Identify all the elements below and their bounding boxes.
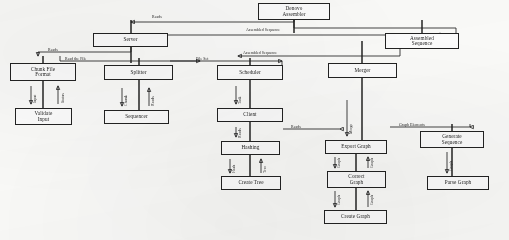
node-label: Sequencer (125, 114, 148, 119)
edge-client-merger (283, 124, 470, 129)
node-label: Denovo Assembler (282, 6, 305, 17)
node-label: Server (123, 37, 137, 42)
node-label: Export Graph (341, 144, 371, 149)
node-hashing[interactable]: Hashing (221, 141, 280, 155)
node-generate_seq[interactable]: Generate Sequence (420, 131, 484, 148)
edge-label-v_tree_hash: Tree (264, 166, 268, 173)
node-denovo_assembler[interactable]: Denovo Assembler (258, 3, 330, 20)
node-splitter[interactable]: Splitter (104, 65, 173, 80)
node-chunk_file_format[interactable]: Chunk File Format (10, 63, 76, 81)
edge-label-assembled_seq_2: Assembled Sequence (243, 52, 277, 56)
node-label: Correct Graph (348, 174, 364, 185)
node-label: Generate Sequence (442, 134, 463, 145)
edge-label-v_correct_export: Graph (371, 158, 375, 168)
node-parse_graph[interactable]: Parse Graph (427, 176, 489, 190)
edge-label-v_validate_chunk: Status (62, 93, 66, 103)
node-label: Splitter (130, 70, 146, 75)
edge-label-v_sched_client: Task (239, 97, 243, 105)
edge-label-v_export_correct: Graph (338, 158, 342, 168)
node-label: Scheduler (239, 70, 261, 75)
node-create_tree[interactable]: Create Tree (221, 176, 281, 190)
edge-label-v_merger_export: Merge (350, 124, 354, 134)
edge-label-v_client_hash: Reads (239, 128, 243, 138)
edge-label-v_correct_create: Graph (338, 195, 342, 205)
edge-label-v_gen_parse: Graph (450, 161, 454, 171)
node-label: Parse Graph (445, 180, 472, 185)
node-correct_graph[interactable]: Correct Graph (327, 171, 386, 188)
node-label: Create Graph (341, 214, 370, 219)
edge-label-reads_client: Reads (291, 126, 301, 130)
edge-label-v_seq_split: Reads (152, 96, 156, 106)
node-label: Merger (355, 68, 371, 73)
edge-label-graph_elements: Graph Elements (399, 124, 425, 128)
edge-label-assembled_seq_1: Assembled Sequence (246, 29, 280, 33)
node-sequencer[interactable]: Sequencer (104, 110, 169, 124)
edge-label-v_hash_tree: Hash (233, 165, 237, 173)
denovo-assembler-diagram: Denovo AssemblerServerAssembled Sequence… (0, 0, 509, 240)
node-label: Validate Input (35, 111, 53, 122)
edge-reads-top (131, 20, 294, 22)
edge-label-file_set: File Set (196, 58, 208, 62)
edge-label-reads_top: Reads (152, 16, 162, 20)
node-validate_input[interactable]: Validate Input (15, 108, 72, 125)
node-label: Hashing (242, 145, 260, 150)
node-label: Client (243, 112, 256, 117)
edge-label-v_chunk_validate: Input (34, 95, 38, 103)
node-client[interactable]: Client (217, 108, 283, 122)
node-label: Create Tree (238, 180, 263, 185)
node-export_graph[interactable]: Export Graph (325, 140, 387, 154)
edge-label-read_the_file: Read the File (65, 58, 86, 62)
edge-label-reads_server: Reads (48, 49, 58, 53)
node-assembled_seq[interactable]: Assembled Sequence (385, 33, 459, 49)
node-label: Assembled Sequence (410, 36, 434, 47)
edge-label-v_create_correct: Graph (371, 195, 375, 205)
node-create_graph[interactable]: Create Graph (324, 210, 387, 224)
edge-label-v_split_seq: Chunk (125, 95, 129, 106)
node-label: Chunk File Format (31, 67, 55, 78)
node-merger[interactable]: Merger (328, 63, 397, 78)
node-server[interactable]: Server (93, 33, 168, 47)
node-scheduler[interactable]: Scheduler (217, 65, 283, 80)
